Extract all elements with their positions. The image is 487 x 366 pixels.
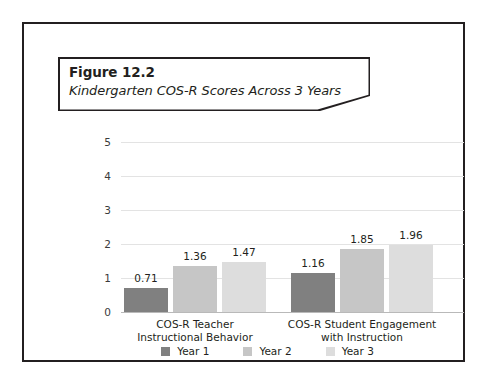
y-axis-tick-0: 0 [77,307,111,317]
y-axis-tick-2: 2 [77,239,111,249]
bar-value-label: 1.36 [183,251,206,262]
chart-legend: Year 1Year 2Year 3 [46,346,487,357]
bar-value-label: 1.47 [232,247,255,258]
y-axis-tick-3: 3 [77,205,111,215]
category-label-line: with Instruction [269,331,455,344]
bar-value-label: 1.85 [350,234,373,245]
legend-item: Year 2 [243,346,291,357]
bar: 1.85 [340,249,384,312]
bar: 0.71 [124,288,168,312]
x-axis-category-label: COS-R Student Engagementwith Instruction [269,318,455,344]
category-label-line: Instructional Behavior [102,331,288,344]
gridline-4 [121,176,464,177]
bar-value-label: 1.96 [399,230,422,241]
bar-value-label: 0.71 [134,273,157,284]
gridline-0 [121,312,464,313]
plot-area: 0123450.711.361.47COS-R TeacherInstructi… [121,142,464,312]
legend-swatch-icon [326,347,335,356]
legend-label: Year 3 [342,346,374,357]
figure-frame: Figure 12.2 Kindergarten COS-R Scores Ac… [22,22,465,362]
y-axis-tick-4: 4 [77,171,111,181]
title-text-group: Figure 12.2 Kindergarten COS-R Scores Ac… [69,63,362,100]
bar: 1.36 [173,266,217,312]
legend-swatch-icon [161,347,170,356]
category-label-line: COS-R Student Engagement [269,318,455,331]
figure-number: Figure 12.2 [69,63,362,81]
figure-title-box: Figure 12.2 Kindergarten COS-R Scores Ac… [58,57,370,111]
legend-label: Year 2 [259,346,291,357]
category-label-line: COS-R Teacher [102,318,288,331]
gridline-5 [121,142,464,143]
legend-swatch-icon [243,347,252,356]
bar-chart: 0123450.711.361.47COS-R TeacherInstructi… [46,124,487,366]
bar: 1.47 [222,262,266,312]
bar: 1.96 [389,245,433,312]
figure-subtitle: Kindergarten COS-R Scores Across 3 Years [69,81,362,100]
legend-item: Year 1 [161,346,209,357]
bar: 1.16 [291,273,335,312]
y-axis-tick-5: 5 [77,137,111,147]
legend-item: Year 3 [326,346,374,357]
legend-label: Year 1 [177,346,209,357]
gridline-3 [121,210,464,211]
y-axis-tick-1: 1 [77,273,111,283]
x-axis-category-label: COS-R TeacherInstructional Behavior [102,318,288,344]
bar-value-label: 1.16 [301,258,324,269]
